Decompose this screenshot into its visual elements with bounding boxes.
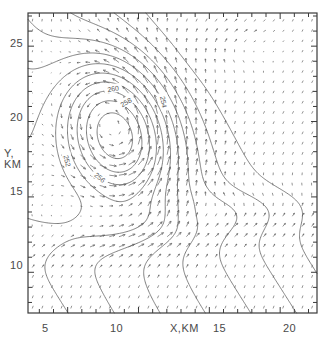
svg-text:252: 252 [63, 154, 72, 167]
wind-vector-field [32, 18, 314, 309]
ytick-label-15: 15 [10, 185, 23, 197]
contour-label: 260 [103, 83, 122, 94]
contour-label: 256 [90, 168, 110, 186]
ytick-label-10: 10 [10, 259, 23, 271]
xtick-label-15: 15 [213, 322, 226, 334]
y-axis-title: Y,KM [4, 148, 22, 170]
ytick-label-20: 20 [10, 111, 23, 123]
contour-vector-figure: 260258252256254 25 20 15 10 5 10 15 20 Y… [0, 0, 333, 344]
xtick-label-5: 5 [42, 322, 49, 334]
xtick-label-10: 10 [110, 322, 123, 334]
x-axis-title: X,KM [170, 322, 199, 334]
y-axis-title-line2: KM [4, 158, 22, 170]
xtick-label-20: 20 [283, 322, 296, 334]
plot-canvas: 260258252256254 [0, 0, 333, 344]
ytick-label-25: 25 [10, 37, 23, 49]
contour-label: 252 [61, 151, 74, 170]
